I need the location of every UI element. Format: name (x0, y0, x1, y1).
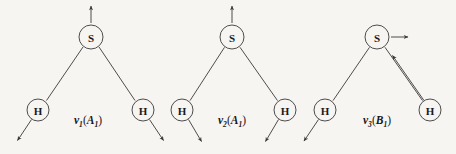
sulfur-atom-label: S (229, 32, 235, 44)
mode-2-label: ν2(A1) (218, 114, 246, 129)
sulfur-atom-label: S (88, 32, 94, 44)
vibrational-modes-figure: S H H ν1(A1) S H H ν2(A1) (0, 0, 456, 154)
arrow-hydrogen-right-up-left (393, 56, 425, 101)
mode-3-term: B (375, 114, 384, 126)
molecule-diagram-canvas: S H H ν1(A1) S H H ν2(A1) (0, 0, 456, 154)
arrow-hydrogen-left-down-left (18, 120, 32, 141)
arrow-hydrogen-left-down-left (304, 120, 319, 142)
mode-1-term: A (86, 114, 95, 126)
bond-s-h-left (333, 47, 370, 100)
arrow-hydrogen-right-down-right (150, 120, 164, 141)
bond-s-h-right (99, 47, 135, 101)
mode-2-close-paren: ) (242, 114, 246, 127)
hydrogen-atom-left-label: H (178, 105, 187, 117)
hydrogen-atom-right-label: H (426, 105, 435, 117)
arrow-hydrogen-right-down-left (266, 120, 279, 142)
hydrogen-atom-right-label: H (281, 105, 290, 117)
mode-3-close-paren: ) (387, 114, 391, 127)
mode-2-term: A (230, 114, 239, 126)
hydrogen-atom-right-label: H (139, 105, 148, 117)
mode-3-label: ν3(B1) (363, 114, 391, 129)
hydrogen-atom-left-label: H (34, 105, 43, 117)
mode-2-group: S H H ν2(A1) (171, 6, 296, 142)
mode-1-label: ν1(A1) (74, 114, 102, 129)
sulfur-atom-label: S (374, 32, 380, 44)
bond-s-h-left (47, 47, 84, 101)
hydrogen-atom-left-label: H (321, 105, 330, 117)
bond-s-h-left (190, 47, 225, 100)
mode-3-group: S H H ν3(B1) (304, 25, 441, 141)
mode-1-close-paren: ) (98, 114, 102, 127)
bond-s-h-right (385, 47, 423, 100)
bond-s-h-right (240, 47, 278, 100)
mode-1-group: S H H ν1(A1) (18, 6, 164, 141)
arrow-hydrogen-left-down-right (189, 120, 202, 142)
